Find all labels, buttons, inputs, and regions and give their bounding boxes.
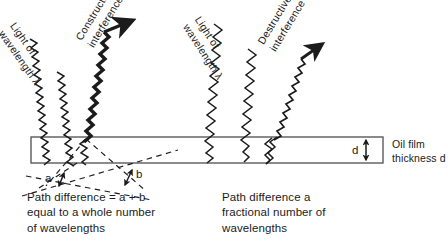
segment-a-label: a bbox=[45, 171, 51, 186]
segment-b-label: b bbox=[136, 167, 142, 182]
film-thickness-letter: d bbox=[352, 143, 358, 158]
right-caption: Path difference a fractional number of w… bbox=[222, 190, 326, 236]
segment-b-dimension-arrow bbox=[125, 170, 132, 185]
destructive-interference-wave bbox=[274, 45, 321, 140]
thin-film-interference-diagram: Light of wavelength λ Constructive inter… bbox=[0, 0, 448, 251]
oil-film-label: Oil film thickness d bbox=[392, 138, 446, 166]
left-caption: Path difference = a + b equal to a whole… bbox=[27, 190, 155, 236]
